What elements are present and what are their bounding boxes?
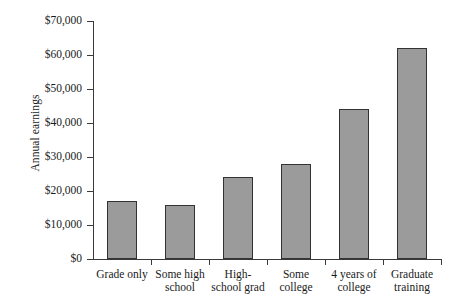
y-axis-tick (87, 225, 93, 226)
x-axis-category-label: Some high school (152, 268, 208, 294)
y-axis-tick-label: $50,000 (20, 83, 82, 95)
x-axis-tick (441, 259, 442, 265)
y-axis-tick-label: $20,000 (20, 185, 82, 197)
bar-chart: Annual earnings $0$10,000$20,000$30,000$… (0, 0, 452, 305)
y-axis-tick-label-text: $40,000 (24, 117, 82, 129)
y-axis-tick-label: $40,000 (20, 117, 82, 129)
y-axis-tick-label-text: $30,000 (24, 151, 82, 163)
x-axis-category-label: 4 years of college (326, 268, 382, 294)
x-axis-tick (209, 259, 210, 265)
x-axis-tick (325, 259, 326, 265)
x-axis-tick (151, 259, 152, 265)
bar (107, 201, 137, 259)
x-axis-category-label: Graduate training (384, 268, 440, 294)
x-axis-tick (383, 259, 384, 265)
x-axis-tick (267, 259, 268, 265)
bar (281, 164, 311, 259)
y-axis-tick (87, 157, 93, 158)
y-axis-tick (87, 259, 93, 260)
x-axis-category-label: Some college (268, 268, 324, 294)
y-axis-line (93, 21, 94, 260)
y-axis-tick (87, 55, 93, 56)
y-axis-tick-label: $0 (20, 253, 82, 265)
y-axis-tick-label: $70,000 (20, 15, 82, 27)
y-axis-tick (87, 21, 93, 22)
y-axis-tick-label: $30,000 (20, 151, 82, 163)
bar (223, 177, 253, 259)
y-axis-tick-label-text: $70,000 (24, 15, 82, 27)
x-axis-category-label: High-school grad (210, 268, 266, 294)
y-axis-tick-label-text: $20,000 (24, 185, 82, 197)
y-axis-tick-label-text: $60,000 (24, 49, 82, 61)
y-axis-tick (87, 123, 93, 124)
bar (165, 205, 195, 259)
y-axis-tick-label-text: $50,000 (24, 83, 82, 95)
bar (397, 48, 427, 259)
y-axis-tick-label: $10,000 (20, 219, 82, 231)
y-axis-tick-label-text: $0 (24, 253, 82, 265)
bar (339, 109, 369, 259)
y-axis-tick (87, 89, 93, 90)
y-axis-tick-label-text: $10,000 (24, 219, 82, 231)
y-axis-tick (87, 191, 93, 192)
x-axis-category-label: Grade only (94, 268, 150, 281)
y-axis-tick-label: $60,000 (20, 49, 82, 61)
